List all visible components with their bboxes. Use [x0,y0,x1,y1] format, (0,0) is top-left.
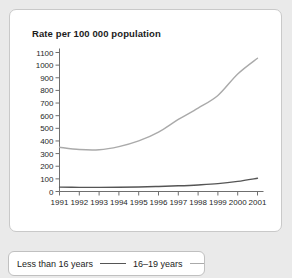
svg-text:1992: 1992 [70,198,88,207]
legend: Less than 16 years 16–19 years [8,251,205,276]
series-lines [60,58,258,187]
series-line-1 [60,58,258,150]
svg-text:100: 100 [40,175,54,184]
series-line-0 [60,178,258,187]
svg-text:1998: 1998 [189,198,207,207]
legend-swatch-under-16 [100,263,126,264]
legend-entry-under-16: Less than 16 years [17,259,133,269]
svg-text:500: 500 [40,124,54,133]
svg-text:700: 700 [40,99,54,108]
svg-text:2001: 2001 [249,198,267,207]
svg-text:1995: 1995 [130,198,148,207]
svg-text:0: 0 [49,188,54,197]
svg-text:1994: 1994 [110,198,128,207]
page-background: Rate per 100 000 population 010020030040… [0,0,292,278]
line-chart-svg: 010020030040050060070080090010001100 199… [10,10,283,233]
legend-swatch-16-19 [190,263,205,264]
svg-text:1996: 1996 [150,198,168,207]
svg-text:2000: 2000 [229,198,247,207]
x-axis: 1991199219931994199519961997199819992000… [51,192,267,207]
svg-text:900: 900 [40,74,54,83]
svg-text:600: 600 [40,112,54,121]
svg-text:1100: 1100 [36,49,54,58]
legend-label-16-19: 16–19 years [133,259,183,269]
svg-text:1993: 1993 [90,198,108,207]
svg-text:1991: 1991 [51,198,69,207]
svg-text:1999: 1999 [209,198,227,207]
legend-label-under-16: Less than 16 years [17,259,93,269]
svg-text:1997: 1997 [169,198,187,207]
svg-text:300: 300 [40,150,54,159]
chart-card: Rate per 100 000 population 010020030040… [9,9,282,232]
plot-area: 010020030040050060070080090010001100 199… [10,10,283,233]
svg-text:800: 800 [40,86,54,95]
legend-entry-16-19: 16–19 years [133,259,205,269]
svg-text:400: 400 [40,137,54,146]
svg-text:1000: 1000 [36,61,54,70]
svg-text:200: 200 [40,162,54,171]
y-axis: 010020030040050060070080090010001100 [36,49,60,197]
